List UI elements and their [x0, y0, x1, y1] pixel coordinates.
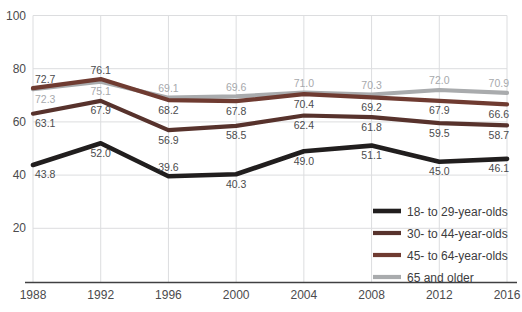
- value-label: 56.9: [158, 134, 179, 146]
- x-tick-label: 1992: [87, 288, 114, 302]
- legend-item: 45- to 64-year-olds: [373, 249, 508, 263]
- y-tick-label: 100: [6, 9, 26, 23]
- value-label: 69.1: [158, 82, 179, 94]
- value-label: 72.0: [429, 74, 450, 86]
- value-label: 58.5: [226, 129, 247, 141]
- legend-label: 65 and older: [407, 271, 474, 285]
- value-label: 49.0: [294, 155, 315, 167]
- value-label: 39.6: [158, 161, 179, 173]
- value-label: 76.1: [90, 64, 111, 76]
- y-tick-label: 60: [13, 115, 27, 129]
- value-label: 52.0: [90, 147, 111, 159]
- y-tick-label: 40: [13, 168, 27, 182]
- x-tick-label: 2016: [494, 288, 521, 302]
- value-label: 68.2: [158, 104, 179, 116]
- value-label: 71.0: [294, 77, 315, 89]
- legend-label: 45- to 64-year-olds: [407, 249, 508, 263]
- x-tick-label: 2004: [291, 288, 318, 302]
- chart-page: 2040608010019881992199620002004200820122…: [0, 0, 522, 312]
- x-tick-label: 2012: [426, 288, 453, 302]
- y-tick-label: 80: [13, 62, 27, 76]
- value-label: 69.2: [361, 101, 382, 113]
- value-label: 67.9: [429, 104, 450, 116]
- value-label: 51.1: [361, 149, 382, 161]
- x-tick-label: 1988: [20, 288, 47, 302]
- turnout-by-age-line-chart: 2040608010019881992199620002004200820122…: [0, 0, 522, 312]
- value-label: 70.4: [294, 98, 315, 110]
- value-label: 66.6: [489, 108, 510, 120]
- x-tick-label: 2000: [223, 288, 250, 302]
- x-tick-label: 1996: [155, 288, 182, 302]
- value-label: 69.6: [226, 81, 247, 93]
- value-label: 70.3: [361, 79, 382, 91]
- chart-canvas: 2040608010019881992199620002004200820122…: [0, 0, 522, 312]
- value-label: 45.0: [429, 165, 450, 177]
- value-label: 72.3: [35, 93, 56, 105]
- value-label: 75.1: [90, 85, 111, 97]
- value-label: 59.5: [429, 127, 450, 139]
- value-label: 61.8: [361, 121, 382, 133]
- value-label: 58.7: [489, 129, 510, 141]
- value-label: 40.3: [226, 178, 247, 190]
- legend-label: 18- to 29-year-olds: [407, 205, 508, 219]
- value-label: 43.8: [35, 168, 56, 180]
- value-label: 72.7: [35, 73, 56, 85]
- value-label: 67.8: [226, 105, 247, 117]
- value-label: 46.1: [489, 162, 510, 174]
- legend-item: 18- to 29-year-olds: [373, 205, 508, 219]
- value-label: 62.4: [294, 119, 315, 131]
- value-label: 63.1: [35, 117, 56, 129]
- y-tick-label: 20: [13, 221, 27, 235]
- legend-label: 30- to 44-year-olds: [407, 227, 508, 241]
- value-label: 70.9: [489, 77, 510, 89]
- x-tick-label: 2008: [358, 288, 385, 302]
- value-label: 67.9: [90, 104, 111, 116]
